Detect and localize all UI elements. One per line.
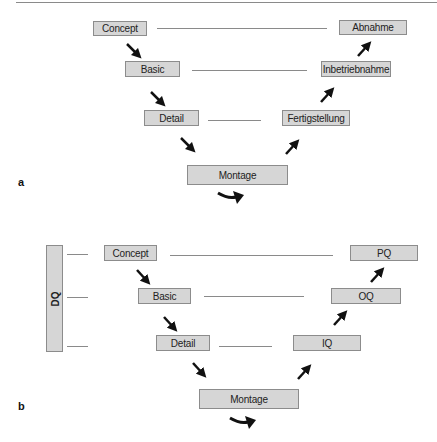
- arrow-down-concept-basic-a: [127, 44, 138, 55]
- arrow-up-inbetriebnahme-abnahme: [358, 45, 368, 56]
- arrow-up-oq-pq: [371, 271, 381, 282]
- arrow-down-detail-montage-b: [193, 363, 203, 374]
- arrow-down-basic-detail-a: [151, 92, 162, 103]
- arrow-curved-montage-b: [230, 416, 256, 429]
- arrow-up-iq-oq: [334, 314, 344, 325]
- arrow-up-fertigstellung-inbetriebnahme: [321, 91, 331, 102]
- arrow-up-montage-fertigstellung: [286, 143, 296, 154]
- arrow-up-montage-iq: [298, 368, 308, 379]
- arrow-down-concept-basic-b: [137, 270, 147, 281]
- arrow-down-basic-detail-b: [164, 317, 174, 328]
- arrow-curved-montage-a: [218, 191, 244, 204]
- arrow-down-detail-montage-a: [181, 138, 192, 149]
- arrows-layer: [0, 0, 437, 442]
